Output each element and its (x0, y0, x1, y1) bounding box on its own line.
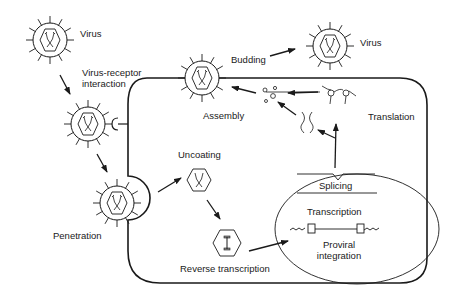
arrow-penetration-to-uncoating (158, 178, 181, 192)
label-proviral-2: integration (310, 250, 368, 261)
label-translation: Translation (368, 111, 415, 122)
receptor (112, 118, 128, 130)
uncoated-capsid-icon (187, 169, 211, 191)
virion-free-icon (26, 16, 74, 64)
cell-membrane (128, 78, 427, 283)
label-budding: Budding (231, 54, 266, 65)
label-splicing: Splicing (319, 180, 352, 191)
virion-released-icon (306, 22, 354, 70)
viral-proteins-icon (263, 86, 277, 102)
arrow-receptor-to-penetration (97, 154, 107, 172)
label-virus-released: Virus (360, 37, 381, 48)
arrow-nucleus-to-translation (335, 124, 336, 168)
arrow-uncoating-to-rt (207, 200, 220, 219)
reverse-transcription-capsid-icon (213, 230, 241, 256)
retrovirus-lifecycle-diagram (0, 0, 452, 294)
virion-assembly-icon (178, 54, 226, 102)
label-virus-receptor-2: interaction (82, 78, 126, 89)
virion-receptor-bound-icon (64, 100, 112, 148)
label-uncoating: Uncoating (178, 149, 221, 160)
arrow-rt-to-integration (249, 241, 288, 251)
label-virus-free: Virus (80, 28, 101, 39)
label-penetration: Penetration (53, 230, 102, 241)
arrow-budding (270, 49, 295, 56)
integrated-provirus-icon (290, 224, 379, 233)
label-assembly: Assembly (203, 110, 244, 121)
viral-rna-icon (301, 112, 313, 133)
arrow-virus-to-receptor (60, 75, 70, 94)
label-proviral-1: Proviral (310, 239, 368, 250)
arrow-proteins-to-assembly (232, 87, 256, 93)
label-transcription: Transcription (307, 206, 362, 217)
arrow-nucleus-to-rna (318, 130, 335, 138)
label-virus-receptor-1: Virus-receptor (82, 67, 142, 78)
ribosome-translation-icon (266, 86, 356, 104)
label-reverse-transcription: Reverse transcription (180, 263, 270, 274)
arrow-rna-to-proteins (278, 102, 296, 115)
